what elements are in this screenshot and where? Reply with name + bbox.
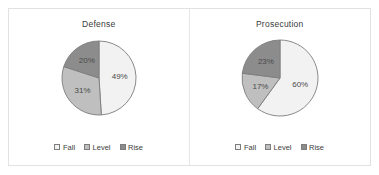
pie-label-level: 31% [74, 86, 90, 95]
legend-swatch-rise-icon [301, 144, 307, 150]
pie-chart-defense: 49% 31% 20% [9, 34, 189, 122]
chart-title-defense: Defense [9, 19, 189, 29]
chart-title-prosecution: Prosecution [190, 19, 371, 29]
legend-item-fall[interactable]: Fall [54, 144, 75, 152]
chart-cell-prosecution: Prosecution 60% 17% 23% Fall [190, 9, 371, 165]
figure-panel: Defense 49% 31% 20% Fall [8, 8, 371, 166]
legend-swatch-level-icon [84, 144, 90, 150]
legend-swatch-fall-icon [54, 144, 60, 150]
pie-label-rise: 23% [258, 57, 274, 66]
pie-label-fall: 60% [292, 80, 308, 89]
legend-item-rise[interactable]: Rise [120, 144, 144, 152]
legend-swatch-rise-icon [120, 144, 126, 150]
legend-item-level[interactable]: Level [265, 144, 291, 152]
legend-label-level: Level [274, 144, 292, 152]
legend-swatch-level-icon [265, 144, 271, 150]
legend-defense: Fall Level Rise [9, 144, 189, 152]
pie-svg-defense: 49% 31% 20% [61, 40, 137, 116]
chart-cell-defense: Defense 49% 31% 20% Fall [9, 9, 190, 165]
pie-label-level: 17% [252, 82, 268, 91]
pie-svg-prosecution: 60% 17% 23% [241, 39, 319, 117]
legend-label-level: Level [93, 144, 111, 152]
pie-label-fall: 49% [111, 72, 127, 81]
legend-item-fall[interactable]: Fall [235, 144, 256, 152]
legend-prosecution: Fall Level Rise [190, 144, 371, 152]
pie-label-rise: 20% [79, 56, 95, 65]
legend-item-rise[interactable]: Rise [301, 144, 325, 152]
legend-label-rise: Rise [309, 144, 324, 152]
legend-label-rise: Rise [128, 144, 143, 152]
legend-swatch-fall-icon [235, 144, 241, 150]
pie-chart-prosecution: 60% 17% 23% [190, 34, 371, 122]
legend-label-fall: Fall [244, 144, 256, 152]
legend-label-fall: Fall [63, 144, 75, 152]
legend-item-level[interactable]: Level [84, 144, 110, 152]
pie-slices-prosecution [242, 40, 318, 116]
